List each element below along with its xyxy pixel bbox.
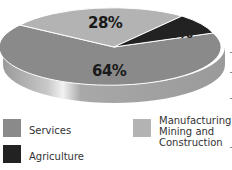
edge-mark bbox=[230, 72, 232, 73]
services-swatch bbox=[3, 119, 21, 137]
legend-item-services: Services bbox=[3, 119, 71, 137]
manufacturing-swatch bbox=[133, 119, 151, 137]
edge-mark bbox=[230, 98, 232, 99]
edge-mark bbox=[230, 147, 232, 148]
legend-label-manufacturing: Manufacturing, Mining and Construction bbox=[159, 115, 232, 148]
legend-label-agriculture: Agriculture bbox=[29, 151, 84, 162]
edge-mark bbox=[230, 52, 232, 53]
legend-label-services: Services bbox=[29, 125, 71, 136]
label-agriculture-pct: 8% bbox=[168, 24, 192, 42]
agriculture-swatch bbox=[3, 145, 21, 163]
label-services-pct: 64% bbox=[92, 62, 126, 80]
legend-item-agriculture: Agriculture bbox=[3, 145, 84, 163]
label-manufacturing-pct: 28% bbox=[88, 14, 122, 32]
legend-item-manufacturing: Manufacturing, Mining and Construction bbox=[133, 114, 232, 148]
